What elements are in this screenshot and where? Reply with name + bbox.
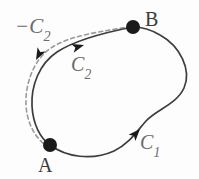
contour-diagram: −C2 C2 C1 A B <box>0 0 199 179</box>
label-c2-subscript: 2 <box>85 67 92 82</box>
minus-c2-dashed-path <box>26 26 131 146</box>
label-minus-c2: −C2 <box>15 16 50 40</box>
label-point-a: A <box>38 155 52 175</box>
point-b-dot <box>126 20 140 34</box>
label-c2-base: C <box>71 53 84 75</box>
c2-solid-path <box>32 27 133 145</box>
label-c1-subscript: 1 <box>154 145 161 160</box>
label-point-b: B <box>145 9 158 29</box>
c1-solid-path <box>50 27 187 157</box>
label-c1-base: C <box>140 131 153 153</box>
point-a-dot <box>43 138 57 152</box>
label-minus-c2-subscript: 2 <box>43 28 50 44</box>
label-c2: C2 <box>71 54 91 79</box>
label-c1: C1 <box>140 132 160 157</box>
label-minus-c2-base: −C <box>15 14 43 38</box>
